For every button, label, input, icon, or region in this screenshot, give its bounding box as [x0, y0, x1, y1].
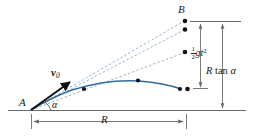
label-r-tan-alpha: R tan α [206, 66, 236, 77]
dashed-endpoint-dot-group [183, 19, 190, 92]
label-point-b: B [178, 4, 185, 15]
dashed-ray-group [31, 20, 186, 110]
dashed-ray-top [31, 20, 186, 110]
velocity-vector-arrow [31, 82, 70, 110]
projectile-motion-figure: B A v0 α R 1 2 gt2 R tan α [0, 0, 253, 137]
drop-exponent: 2 [203, 47, 206, 54]
height-alpha-symbol: α [231, 65, 237, 76]
label-range: R [101, 114, 108, 125]
height-tan-symbol: tan [215, 65, 228, 76]
label-launch-angle: α [52, 100, 57, 110]
dashed-endpoint-dot [183, 27, 188, 32]
trajectory-dot [136, 78, 140, 82]
dashed-endpoint-dot [185, 87, 190, 92]
trajectory-dot [82, 87, 86, 91]
label-initial-velocity: v0 [51, 67, 60, 80]
point-b-dot [183, 19, 188, 24]
label-point-a: A [19, 97, 26, 108]
dashed-endpoint-dot [183, 50, 188, 55]
trajectory-dot [178, 87, 182, 91]
velocity-subscript: 0 [56, 71, 60, 80]
label-vertical-drop: 1 2 gt2 [191, 46, 207, 61]
